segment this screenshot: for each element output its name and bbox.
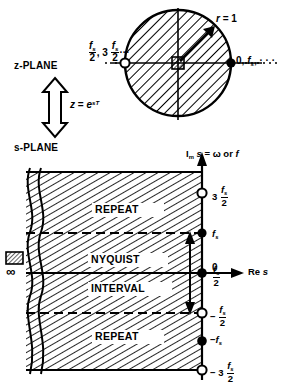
- region-label-repeat-top: REPEAT: [95, 203, 139, 215]
- imag-axis-label: Im s = ω or f: [186, 148, 239, 160]
- z-plane-origin-marker: [172, 57, 184, 69]
- tick-label-minus-fs: −fs: [210, 334, 222, 346]
- tick-label-3fs2: 3 fs2: [212, 186, 228, 208]
- label-ellipsis: ···: [120, 47, 130, 58]
- z-plane-left-point-label: fs 2 , 3 fs 2 ···: [88, 42, 130, 64]
- label-separator: ,: [97, 47, 100, 58]
- radius-label: r = 1: [216, 13, 237, 24]
- tick-marker-filled-fs: [197, 228, 206, 237]
- frac-fs-over-2-a: fs 2: [88, 41, 97, 63]
- figure-root: fs 2 , 3 fs 2 ··· 0, fs, · · · r = 1 z-P…: [0, 0, 285, 389]
- s-plane-title: s-PLANE: [14, 142, 58, 153]
- region-label-nyquist: NYQUIST: [91, 253, 140, 265]
- region-label-interval: INTERVAL: [91, 282, 145, 294]
- z-plane-title: z-PLANE: [14, 60, 58, 71]
- z-point-filled-plus-one: [226, 58, 235, 67]
- tick-marker-open-3fs2: [197, 188, 206, 197]
- z-plane-right-point-label: 0, fs, · · ·: [236, 55, 275, 67]
- mapping-arrow: [43, 78, 67, 137]
- real-axis-label: Re s: [248, 266, 268, 277]
- region-label-repeat-bottom: REPEAT: [95, 330, 139, 342]
- tick-label-fs: fs: [212, 228, 218, 240]
- mapping-equation: z = esT: [70, 99, 99, 110]
- real-axis-arrowhead: [231, 268, 244, 278]
- label-multiplier: 3: [102, 47, 108, 58]
- infinity-marker: [6, 252, 23, 264]
- tick-label-zero: 0: [212, 262, 218, 273]
- tick-label-minus-3fs2: − 3 fs2: [210, 362, 235, 384]
- infinity-label: ∞: [6, 264, 15, 279]
- frac-fs-over-2-b: fs 2: [111, 41, 120, 63]
- tick-label-minus-fs2: − fs2: [210, 306, 227, 328]
- label-zero: 0,: [236, 55, 244, 66]
